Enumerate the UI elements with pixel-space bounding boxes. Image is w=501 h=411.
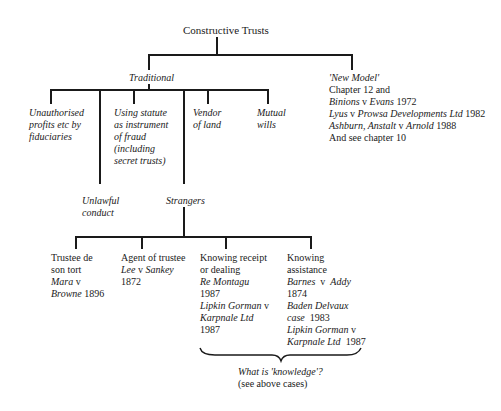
knowledge-subtext: (see above cases)	[238, 378, 323, 390]
knowledge-note: What is 'knowledge'? (see above cases)	[238, 366, 323, 390]
knowledge-question: What is 'knowledge'?	[238, 366, 323, 378]
curly-brace-icon	[0, 0, 501, 411]
